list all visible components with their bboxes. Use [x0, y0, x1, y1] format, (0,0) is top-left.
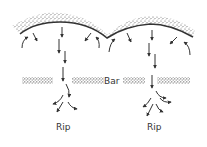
arrow-icon — [66, 84, 69, 97]
arrow-icon — [170, 37, 177, 44]
curved-arrow-icon — [96, 37, 99, 48]
curved-arrow-icon — [53, 95, 63, 104]
arrow-icon — [85, 33, 91, 41]
bar-label: Bar — [104, 76, 119, 86]
curved-arrow-icon — [160, 98, 171, 102]
curved-arrow-icon — [143, 98, 151, 107]
curved-arrow-icon — [156, 91, 166, 98]
current-arrows-left — [22, 27, 99, 112]
arrow-icon — [33, 33, 37, 41]
curved-arrow-icon — [156, 104, 163, 112]
curved-arrow-icon — [57, 102, 63, 112]
sandbar-right — [157, 77, 190, 84]
curved-arrow-icon — [184, 42, 190, 55]
arrow-icon — [127, 33, 131, 42]
curved-arrow-icon — [147, 104, 153, 116]
rip-label-right: Rip — [147, 122, 161, 132]
rip-label-left: Rip — [56, 122, 70, 132]
rip-current-diagram — [0, 0, 207, 147]
curved-arrow-icon — [22, 37, 28, 48]
sandbar-left — [22, 77, 53, 84]
curved-arrow-icon — [68, 102, 77, 109]
sandbar-middle-left — [72, 77, 104, 84]
sandbar-middle-right — [123, 77, 145, 84]
current-arrows-right — [109, 30, 190, 116]
curved-arrow-icon — [109, 39, 115, 52]
shoreline — [12, 13, 195, 38]
